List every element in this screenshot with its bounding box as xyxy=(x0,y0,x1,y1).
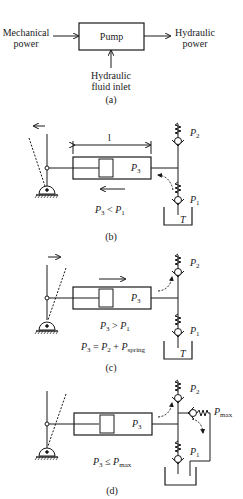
condition-b: P3 < P1 xyxy=(95,204,125,219)
piston xyxy=(99,289,113,307)
mechanical-power-line1: Mechanical xyxy=(0,27,52,38)
valve-label-p1: P1 xyxy=(190,325,200,340)
mechanical-power-label: Mechanical power xyxy=(0,27,52,49)
fluid-inlet-line2: fluid inlet xyxy=(86,81,136,92)
flow-arrow-relief xyxy=(192,419,203,433)
tank-label: T xyxy=(180,214,186,225)
relief-valve-spring xyxy=(197,410,208,416)
reservoir-tank xyxy=(165,467,196,485)
flow-arrow-to-outlet xyxy=(158,403,172,417)
piston xyxy=(99,159,113,177)
valve-label-p2: P2 xyxy=(190,383,200,398)
condition-c-2: P3 = P2 + Pspring xyxy=(81,341,145,356)
lever-dashed-position xyxy=(29,138,45,186)
lever-pin xyxy=(45,166,49,170)
flow-arrow-to-outlet xyxy=(158,277,172,291)
hydraulic-power-line2: power xyxy=(170,38,220,49)
mechanical-power-line2: power xyxy=(0,38,52,49)
valve-label-p2: P2 xyxy=(190,257,200,272)
condition-d: P3 ≤ Pmax xyxy=(93,456,131,471)
relief-valve-label-pmax: Pmax xyxy=(214,406,232,421)
valve-label-p2: P2 xyxy=(190,127,200,142)
lever-dashed-position xyxy=(48,268,66,320)
condition-c-1: P3 > P1 xyxy=(100,320,130,335)
valve-label-p1: P1 xyxy=(190,194,200,209)
pump-label: Pump xyxy=(79,31,144,42)
hydraulic-power-label: Hydraulic power xyxy=(170,27,220,49)
tank-label: T xyxy=(180,348,186,359)
hydraulic-power-line1: Hydraulic xyxy=(170,27,220,38)
stroke-length-label: l xyxy=(108,132,111,143)
caption-c: (c) xyxy=(96,362,126,373)
relief-return-line xyxy=(190,413,210,476)
panel-a-block-diagram xyxy=(53,23,170,68)
lever-pin xyxy=(45,296,49,300)
valve-label-p1: P1 xyxy=(190,446,200,461)
lever-dashed-position xyxy=(48,394,66,446)
flow-arrow-into-cylinder xyxy=(158,175,173,190)
chamber-pressure-p3: P3 xyxy=(131,292,141,307)
lever-pin xyxy=(45,422,49,426)
caption-b: (b) xyxy=(96,231,126,242)
caption-d: (d) xyxy=(97,485,127,496)
caption-a: (a) xyxy=(96,94,126,105)
chamber-pressure-p3: P3 xyxy=(132,418,142,433)
fluid-inlet-line1: Hydraulic xyxy=(86,70,136,81)
fluid-inlet-label: Hydraulic fluid inlet xyxy=(86,70,136,92)
chamber-pressure-p3: P3 xyxy=(131,162,141,177)
piston xyxy=(100,415,114,433)
